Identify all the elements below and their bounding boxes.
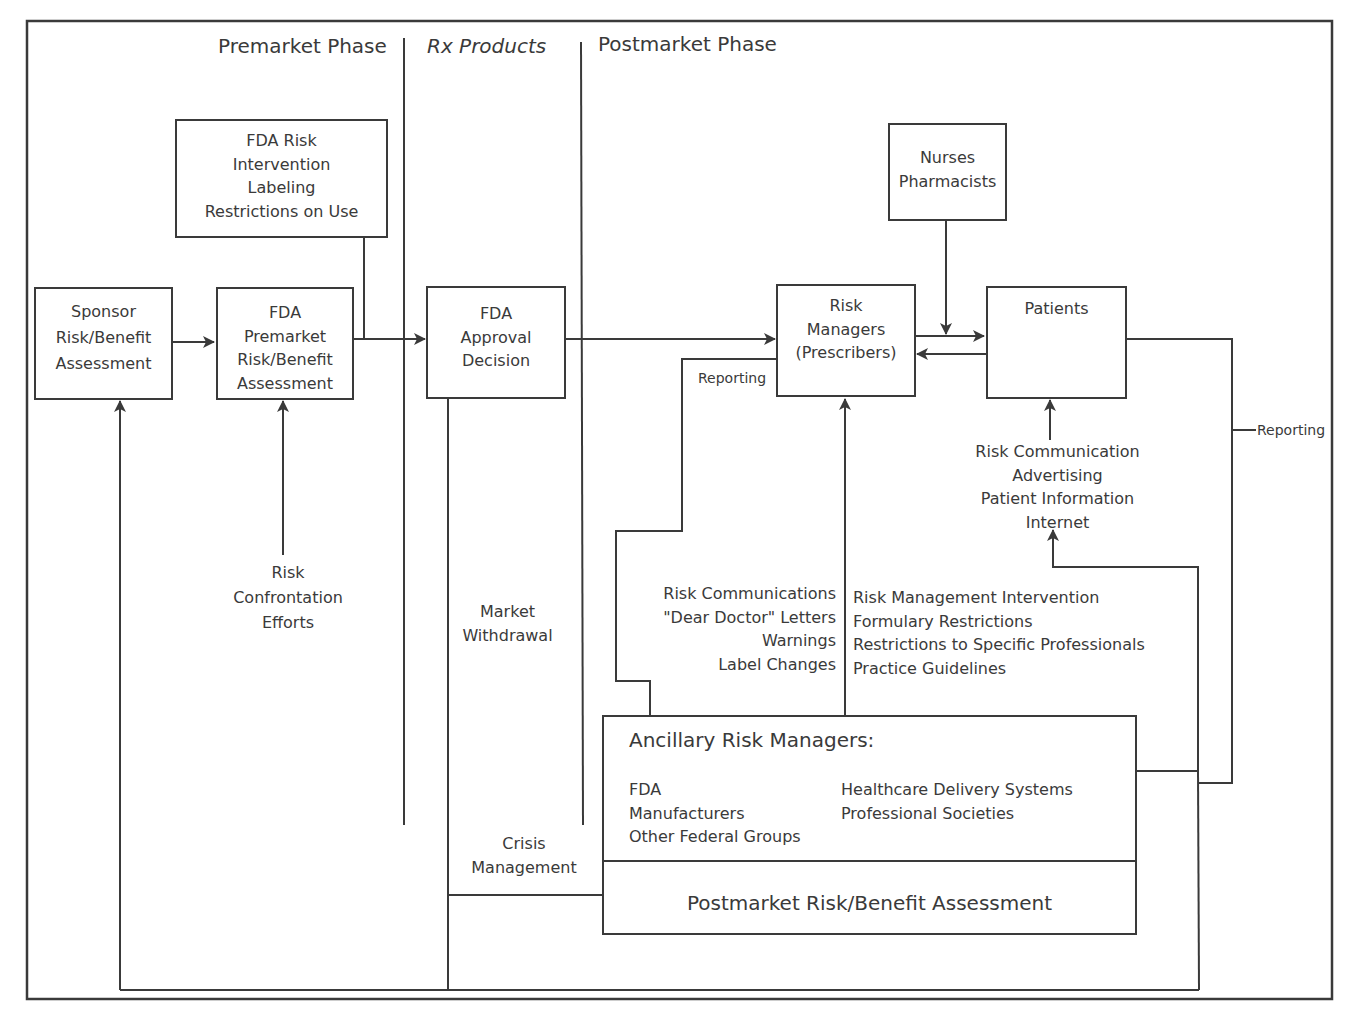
- risk-managers-box: Risk Managers (Prescribers): [776, 284, 916, 397]
- box-line: Assessment: [218, 372, 352, 396]
- premarket-phase-heading: Premarket Phase: [218, 34, 387, 58]
- ancillary-member: Other Federal Groups: [629, 825, 801, 849]
- reporting-label-left: Reporting: [698, 369, 766, 387]
- ancillary-member: Professional Societies: [841, 802, 1073, 826]
- risk-management-intervention-list: Risk Management Intervention Formulary R…: [853, 586, 1145, 680]
- patients-box: Patients: [986, 286, 1127, 399]
- nurses-pharmacists-box: Nurses Pharmacists: [888, 123, 1007, 221]
- label-line: Risk: [218, 560, 358, 585]
- label-line: Withdrawal: [450, 624, 565, 648]
- label-line: Formulary Restrictions: [853, 610, 1145, 634]
- box-line: Risk/Benefit: [36, 325, 171, 351]
- box-line: Nurses: [890, 146, 1005, 170]
- box-line: Decision: [428, 349, 564, 373]
- box-line: Intervention: [177, 153, 386, 177]
- risk-communications-list: Risk Communications "Dear Doctor" Letter…: [630, 582, 836, 676]
- right-down-line: [1198, 771, 1199, 990]
- box-line: Assessment: [36, 351, 171, 377]
- box-line: Premarket: [218, 325, 352, 349]
- label-line: Management: [464, 856, 584, 880]
- label-line: Restrictions to Specific Professionals: [853, 633, 1145, 657]
- fda-approval-decision-box: FDA Approval Decision: [426, 286, 566, 399]
- box-line: Labeling: [177, 176, 386, 200]
- label-line: Market: [450, 600, 565, 624]
- postmarket-phase-heading: Postmarket Phase: [598, 32, 777, 56]
- box-line: Patients: [988, 297, 1125, 321]
- box-line: Sponsor: [36, 299, 171, 325]
- box-line: Approval: [428, 326, 564, 350]
- postmarket-assessment-label: Postmarket Risk/Benefit Assessment: [604, 892, 1135, 916]
- box-line: FDA: [428, 302, 564, 326]
- box-line: Risk/Benefit: [218, 348, 352, 372]
- box-line: Risk: [778, 294, 914, 318]
- label-line: "Dear Doctor" Letters: [630, 606, 836, 630]
- crisis-management-label: Crisis Management: [464, 832, 584, 879]
- label-line: Crisis: [464, 832, 584, 856]
- risk-confrontation-label: Risk Confrontation Efforts: [218, 560, 358, 635]
- box-line: FDA Risk: [177, 129, 386, 153]
- fda-risk-intervention-box: FDA Risk Intervention Labeling Restricti…: [175, 119, 388, 238]
- label-line: Patient Information: [955, 487, 1160, 511]
- label-line: Advertising: [955, 464, 1160, 488]
- ancillary-member: FDA: [629, 778, 801, 802]
- box-line: (Prescribers): [778, 341, 914, 365]
- label-line: Risk Communications: [630, 582, 836, 606]
- label-line: Warnings: [630, 629, 836, 653]
- fda-premarket-assessment-box: FDA Premarket Risk/Benefit Assessment: [216, 287, 354, 400]
- label-line: Practice Guidelines: [853, 657, 1145, 681]
- ancillary-risk-managers-box: Ancillary Risk Managers: FDA Manufacture…: [602, 715, 1137, 862]
- reporting-line-right: [1126, 339, 1232, 783]
- label-line: Efforts: [218, 610, 358, 635]
- patient-communication-list: Risk Communication Advertising Patient I…: [955, 440, 1160, 534]
- label-line: Risk Communication: [955, 440, 1160, 464]
- box-line: Restrictions on Use: [177, 200, 386, 224]
- sponsor-assessment-box: Sponsor Risk/Benefit Assessment: [34, 287, 173, 400]
- postmarket-assessment-box: Postmarket Risk/Benefit Assessment: [602, 860, 1137, 935]
- rx-products-heading: Rx Products: [427, 34, 546, 58]
- label-line: Confrontation: [218, 585, 358, 610]
- ancillary-member: Healthcare Delivery Systems: [841, 778, 1073, 802]
- label-line: Label Changes: [630, 653, 836, 677]
- ancillary-title: Ancillary Risk Managers:: [629, 729, 874, 753]
- ancillary-member: Manufacturers: [629, 802, 801, 826]
- box-line: Pharmacists: [890, 170, 1005, 194]
- reporting-label-right: Reporting: [1257, 421, 1325, 439]
- phase-divider-2: [581, 42, 583, 825]
- label-line: Internet: [955, 511, 1160, 535]
- label-line: Risk Management Intervention: [853, 586, 1145, 610]
- box-line: FDA: [218, 301, 352, 325]
- market-withdrawal-label: Market Withdrawal: [450, 600, 565, 647]
- box-line: Managers: [778, 318, 914, 342]
